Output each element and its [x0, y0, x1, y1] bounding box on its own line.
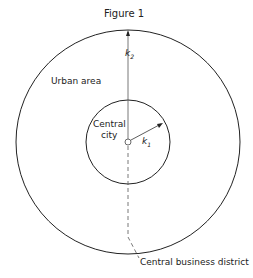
figure-title: Figure 1 [104, 9, 144, 19]
k1-arrowhead [157, 123, 163, 128]
k2-subscript: 2 [130, 53, 134, 60]
concentric-city-diagram [0, 0, 253, 278]
k2-label: k2 [125, 48, 134, 62]
cbd-label: Central business district [140, 257, 249, 267]
urban-area-label: Urban area [51, 76, 101, 86]
k2-arrowhead [126, 30, 130, 36]
central-city-label-line1: Central [93, 119, 126, 129]
cbd-leader-line [128, 146, 139, 258]
cbd-marker [125, 139, 131, 145]
k1-subscript: 1 [147, 141, 151, 148]
k1-label: k1 [142, 136, 151, 150]
central-city-label-line2: city [101, 130, 117, 140]
